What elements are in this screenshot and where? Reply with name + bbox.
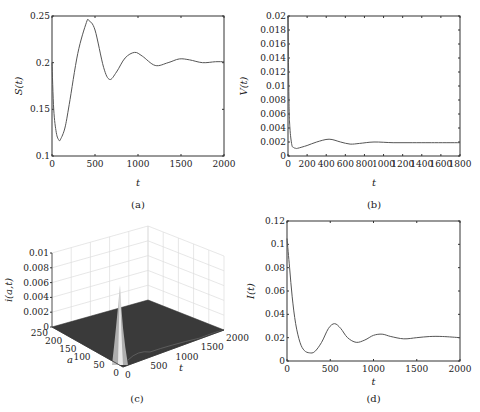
x-axis-label: t xyxy=(372,177,377,188)
axes-frame xyxy=(288,16,460,156)
x-tick-label: 2000 xyxy=(449,364,472,374)
x-tick-label: 800 xyxy=(356,159,373,169)
subplot-b: 02004006008001000120014001600180000.0020… xyxy=(238,11,472,210)
y-tick-label: 0.018 xyxy=(260,25,286,35)
axes-frame xyxy=(52,16,224,156)
subplot-a: 05001000150020000.10.150.20.25tS(t)(a) xyxy=(13,11,236,210)
y-tick-label: 0 xyxy=(279,356,285,366)
t-tick-label: 0 xyxy=(125,370,131,380)
t-tick-label: 1000 xyxy=(176,352,199,362)
axes-frame xyxy=(287,221,460,361)
z-tick-label: 0.004 xyxy=(23,292,49,302)
y-tick-label: 0.25 xyxy=(30,11,50,21)
x-tick-label: 200 xyxy=(299,159,316,169)
x-tick-label: 1000 xyxy=(362,364,385,374)
y-tick-label: 0.002 xyxy=(260,137,286,147)
data-line xyxy=(288,16,460,149)
y-tick-label: 0.15 xyxy=(30,104,50,114)
a-tick-label: 250 xyxy=(31,328,48,338)
data-line xyxy=(287,239,460,354)
subplot-caption: (a) xyxy=(131,199,145,210)
x-tick-label: 500 xyxy=(86,159,103,169)
t-tick-label: 500 xyxy=(150,361,167,371)
y-tick-label: 0.004 xyxy=(260,123,286,133)
y-tick-label: 0.1 xyxy=(271,239,285,249)
t-tick-label: 2000 xyxy=(226,333,249,343)
subplot-d: 050010001500200000.020.040.060.080.10.12… xyxy=(245,216,472,404)
subplot-caption: (c) xyxy=(130,393,144,404)
y-tick-label: 0 xyxy=(280,151,286,161)
subplot-caption: (b) xyxy=(367,199,381,210)
y-axis-label: S(t) xyxy=(13,77,24,96)
x-tick-label: 1500 xyxy=(170,159,193,169)
y-tick-label: 0.008 xyxy=(260,95,286,105)
y-tick-label: 0.02 xyxy=(266,11,286,21)
z-tick-label: 0.002 xyxy=(23,307,49,317)
z-axis-label: i(a,t) xyxy=(3,278,14,302)
z-tick-label: 0.01 xyxy=(29,248,49,258)
x-tick-label: 400 xyxy=(318,159,335,169)
y-tick-label: 0.04 xyxy=(265,309,285,319)
y-axis-label: I(t) xyxy=(245,283,256,300)
y-tick-label: 0.006 xyxy=(260,109,286,119)
x-tick-label: 0 xyxy=(284,364,290,374)
x-tick-label: 1500 xyxy=(405,364,428,374)
x-axis-label: t xyxy=(371,376,376,387)
y-tick-label: 0.1 xyxy=(36,151,50,161)
y-tick-label: 0.06 xyxy=(265,286,285,296)
y-tick-label: 0.01 xyxy=(266,81,286,91)
x-tick-label: 0 xyxy=(285,159,291,169)
z-tick-label: 0.006 xyxy=(23,278,49,288)
y-tick-label: 0.02 xyxy=(265,333,285,343)
x-tick-label: 1000 xyxy=(127,159,150,169)
x-tick-label: 500 xyxy=(322,364,339,374)
a-axis-label: a xyxy=(67,354,73,365)
y-tick-label: 0.012 xyxy=(260,67,286,77)
x-tick-label: 2000 xyxy=(213,159,236,169)
z-tick-label: 0.008 xyxy=(23,263,49,273)
subplot-caption: (d) xyxy=(366,393,380,404)
y-tick-label: 0.2 xyxy=(36,58,50,68)
t-tick-label: 1500 xyxy=(201,342,224,352)
x-axis-label: t xyxy=(136,177,141,188)
subplot-c: 00.0020.0040.0060.0080.01i(a,t)050100150… xyxy=(3,226,249,404)
x-tick-label: 0 xyxy=(49,159,55,169)
figure: 05001000150020000.10.150.20.25tS(t)(a)02… xyxy=(0,0,480,412)
y-tick-label: 0.12 xyxy=(265,216,285,226)
x-tick-label: 600 xyxy=(337,159,354,169)
x-tick-label: 1800 xyxy=(449,159,472,169)
data-line xyxy=(52,19,224,141)
t-axis-label: t xyxy=(179,362,184,373)
a-tick-label: 0 xyxy=(113,368,119,378)
a-tick-label: 50 xyxy=(93,360,105,370)
y-axis-label: V(t) xyxy=(238,76,249,95)
y-tick-label: 0.014 xyxy=(260,53,286,63)
y-tick-label: 0.016 xyxy=(260,39,286,49)
y-tick-label: 0.08 xyxy=(265,263,285,273)
